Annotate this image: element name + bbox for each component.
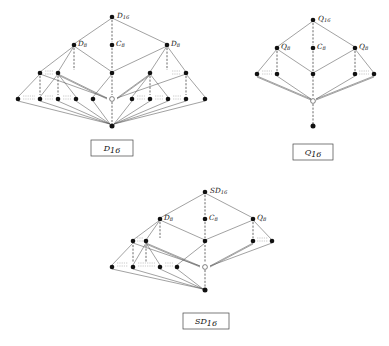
node-d16-l2-center bbox=[110, 43, 115, 48]
label-sd16-right-q8: Q8 bbox=[257, 213, 267, 222]
node-q16-l2-left bbox=[275, 46, 280, 51]
node-sd16-l4 bbox=[110, 265, 115, 270]
node-sd16-l4 bbox=[131, 265, 136, 270]
node-q16-l3 bbox=[255, 72, 260, 77]
label-q16-center-c8: C8 bbox=[317, 42, 327, 51]
node-q16-l2-center bbox=[311, 46, 316, 51]
node-q16-top bbox=[311, 18, 316, 23]
sd16-edges-upper bbox=[133, 193, 272, 240]
node-sd16-l2-right bbox=[251, 217, 256, 222]
label-q16-left-q8: Q8 bbox=[281, 42, 291, 51]
node-q16-bottom bbox=[311, 124, 316, 129]
label-d16-center-c8: C8 bbox=[116, 39, 126, 48]
node-d16-l4 bbox=[203, 97, 208, 102]
d16-edges-mid bbox=[18, 74, 205, 99]
node-q16-l3 bbox=[372, 72, 377, 77]
label-sd16-top: SD16 bbox=[210, 186, 228, 195]
node-d16-l4 bbox=[38, 97, 43, 102]
label-d16-top: D16 bbox=[116, 11, 130, 20]
node-d16-l4 bbox=[184, 97, 189, 102]
figure-canvas: D16 D8 C8 D8 D16 bbox=[0, 0, 389, 346]
node-d16-l3 bbox=[38, 71, 43, 76]
node-sd16-l2-center bbox=[203, 217, 208, 222]
label-q16-right-q8: Q8 bbox=[359, 42, 369, 51]
node-d16-top bbox=[110, 15, 115, 20]
node-d16-l4 bbox=[56, 97, 61, 102]
node-d16-l4 bbox=[130, 97, 135, 102]
node-d16-l4 bbox=[148, 97, 153, 102]
d16-edges-lower bbox=[18, 101, 205, 124]
label-sd16-center-c8: C8 bbox=[209, 213, 219, 222]
node-sd16-l3 bbox=[203, 239, 208, 244]
node-q16-l3 bbox=[353, 72, 358, 77]
node-q16-open bbox=[311, 99, 316, 104]
node-sd16-l4-open bbox=[203, 265, 208, 270]
node-sd16-l4 bbox=[175, 265, 180, 270]
sd16-ellipsis-marks bbox=[117, 238, 268, 266]
node-sd16-bottom bbox=[203, 288, 208, 293]
diagram-d16: D16 D8 C8 D8 D16 bbox=[16, 11, 208, 156]
node-sd16-l3 bbox=[251, 239, 256, 244]
sd16-edges-lower bbox=[112, 269, 205, 289]
node-sd16-l2-left bbox=[158, 217, 163, 222]
node-d16-l4 bbox=[74, 97, 79, 102]
node-q16-l3 bbox=[275, 72, 280, 77]
node-d16-bottom bbox=[110, 124, 115, 129]
diagram-sd16: SD16 D8 C8 Q8 SD16 bbox=[110, 186, 275, 329]
node-sd16-l3 bbox=[270, 239, 275, 244]
node-sd16-l3 bbox=[144, 239, 149, 244]
node-sd16-top bbox=[203, 190, 208, 195]
sd16-nodes bbox=[110, 190, 275, 293]
node-d16-l3 bbox=[184, 71, 189, 76]
label-d16-left-d8: D8 bbox=[77, 39, 88, 48]
node-d16-l2-right bbox=[165, 43, 170, 48]
node-q16-l3 bbox=[311, 72, 316, 77]
node-d16-l4 bbox=[91, 97, 96, 102]
node-q16-l2-right bbox=[353, 46, 358, 51]
label-q16-top: Q16 bbox=[318, 14, 331, 23]
node-d16-l3 bbox=[148, 71, 153, 76]
label-sd16-left-d8: D8 bbox=[163, 213, 174, 222]
label-d16-right-d8: D8 bbox=[170, 39, 181, 48]
node-d16-l4 bbox=[16, 97, 21, 102]
node-sd16-l3 bbox=[131, 239, 136, 244]
node-d16-l3 bbox=[110, 71, 115, 76]
d16-ellipsis-marks bbox=[23, 71, 182, 99]
d16-nodes bbox=[16, 15, 208, 129]
node-sd16-l4 bbox=[158, 265, 163, 270]
node-d16-l2-left bbox=[72, 43, 77, 48]
node-d16-l4-open bbox=[110, 97, 115, 102]
node-d16-l3 bbox=[56, 71, 61, 76]
sd16-edges-mid bbox=[112, 243, 272, 267]
q16-nodes bbox=[255, 18, 377, 129]
node-d16-l4 bbox=[166, 97, 171, 102]
diagram-q16: Q16 Q8 C8 Q8 Q16 bbox=[255, 14, 377, 160]
